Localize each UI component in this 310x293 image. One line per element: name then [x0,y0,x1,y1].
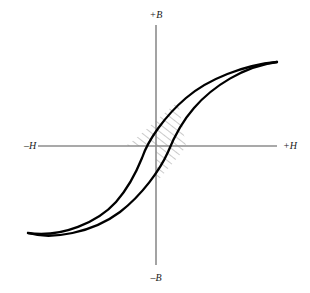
axis-label-negative-h: –H [23,140,37,151]
hysteresis-plot: +B –B –H +H [0,0,310,293]
hysteresis-figure: +B –B –H +H [0,0,310,293]
ascending-branch-curve [28,62,277,236]
axis-label-positive-h: +H [283,140,298,151]
axis-label-negative-b: –B [149,272,161,283]
descending-branch-curve [28,62,277,234]
axis-label-positive-b: +B [150,9,163,20]
